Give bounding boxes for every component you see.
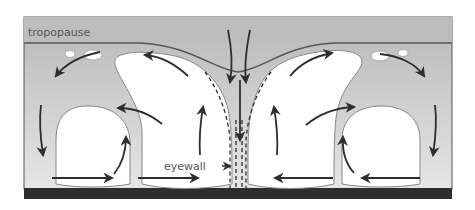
left-outer-cloud bbox=[56, 106, 130, 187]
cloudlet-right-1 bbox=[371, 51, 389, 61]
right-outer-cloud bbox=[342, 106, 420, 187]
eyewall-label: eyewall bbox=[164, 160, 206, 173]
ground-band bbox=[24, 188, 452, 199]
cloudlet-left-1 bbox=[65, 51, 75, 58]
tropopause-label: tropopause bbox=[28, 26, 90, 39]
cloudlet-right-2 bbox=[398, 50, 408, 57]
hurricane-cross-section-diagram: tropopause eyewall bbox=[0, 0, 475, 210]
